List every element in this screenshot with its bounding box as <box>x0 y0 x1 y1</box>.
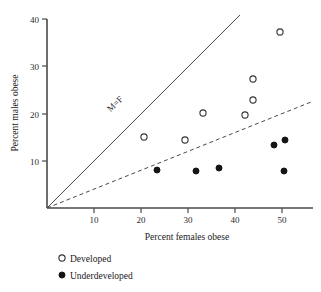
identity-line <box>47 15 240 208</box>
data-point-underdeveloped <box>216 165 222 171</box>
x-tick-label-10: 10 <box>90 215 100 225</box>
identity-line-label: M=F <box>105 94 125 114</box>
data-point-underdeveloped <box>271 142 277 148</box>
x-axis-tick-labels: 10 20 30 40 50 <box>90 215 288 225</box>
data-point-developed <box>250 97 256 103</box>
chart-legend: Developed Underdeveloped <box>59 254 133 281</box>
x-tick-label-20: 20 <box>137 215 147 225</box>
legend-item-underdeveloped: Underdeveloped <box>59 271 133 281</box>
series-developed <box>141 29 283 143</box>
data-point-underdeveloped <box>282 137 288 143</box>
chart-canvas: 40 30 20 10 10 20 30 40 50 Percent femal… <box>0 0 321 292</box>
x-tick-label-40: 40 <box>231 215 241 225</box>
data-point-underdeveloped <box>281 168 287 174</box>
data-point-underdeveloped <box>154 167 160 173</box>
data-point-developed <box>141 134 147 140</box>
reference-lines <box>47 15 311 208</box>
x-tick-label-50: 50 <box>278 215 288 225</box>
y-axis-title: Percent males obese <box>10 74 20 151</box>
axis-group <box>47 19 313 208</box>
data-point-underdeveloped <box>193 168 199 174</box>
y-tick-label-20: 20 <box>30 110 40 120</box>
legend-label-underdeveloped: Underdeveloped <box>70 271 133 281</box>
data-point-developed <box>182 137 188 143</box>
scatter-plot-figure: 40 30 20 10 10 20 30 40 50 Percent femal… <box>0 0 321 292</box>
data-point-developed <box>242 112 248 118</box>
legend-item-developed: Developed <box>59 254 111 264</box>
data-point-developed <box>250 76 256 82</box>
legend-marker-filled-circle-icon <box>59 272 65 278</box>
legend-label-developed: Developed <box>70 254 111 264</box>
trend-line <box>47 102 311 208</box>
legend-marker-open-circle-icon <box>59 255 65 261</box>
y-tick-label-10: 10 <box>30 157 40 167</box>
x-tick-label-30: 30 <box>184 215 194 225</box>
y-axis-tick-labels: 40 30 20 10 <box>30 15 40 167</box>
series-underdeveloped <box>154 137 288 174</box>
data-point-developed <box>200 110 206 116</box>
y-tick-label-30: 30 <box>30 62 40 72</box>
y-tick-label-40: 40 <box>30 15 40 25</box>
x-axis-title: Percent females obese <box>145 232 229 242</box>
data-point-developed <box>277 29 283 35</box>
